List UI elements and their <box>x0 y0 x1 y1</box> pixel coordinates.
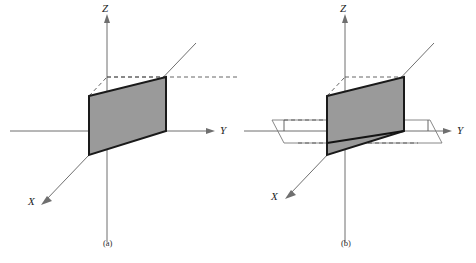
panel-caption-a: (a) <box>103 238 112 248</box>
figure-container: Z Y X <box>0 0 476 263</box>
z-axis-label-b: Z <box>340 2 347 14</box>
x-axis-label-b: X <box>270 190 279 202</box>
y-axis-label-b: Y <box>457 124 465 136</box>
y-axis-label-a: Y <box>220 124 228 136</box>
x-axis-label-a: X <box>27 195 36 207</box>
shaded-plane-patch-a <box>89 77 166 155</box>
panel-caption-b: (b) <box>341 238 351 248</box>
diagram-panel-b: Z Y X <box>238 0 476 263</box>
diagram-panel-a: Z Y X <box>0 0 238 263</box>
z-axis-label-a: Z <box>102 2 109 14</box>
